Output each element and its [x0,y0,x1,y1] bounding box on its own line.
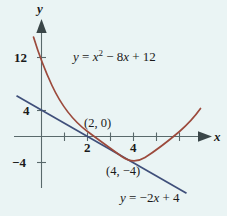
x-axis-arrow [198,131,212,142]
y-tick-label-minus-4: −4 [12,156,26,169]
y-tick-label-4: 4 [23,104,30,117]
y-axis-arrow [36,19,46,33]
coordinate-plot [0,0,227,216]
y-axis-label: y [37,2,43,15]
y-tick-label-12: 12 [14,51,27,64]
parabola-equation: y = x2 − 8x + 12 [73,50,156,63]
graph-figure: y x 12 4 −4 2 4 (2, 0) (4, −4) y = x2 − … [0,0,227,216]
x-axis-label: x [214,130,221,143]
point-label-2-0: (2, 0) [84,117,111,130]
line-equation: y = −2x + 4 [120,191,180,204]
point-label-4-minus4: (4, −4) [106,165,140,178]
x-tick-label-4: 4 [130,141,137,154]
x-tick-label-2: 2 [84,141,91,154]
